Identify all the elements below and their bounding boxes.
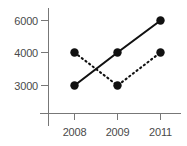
data-point-dashed-series-2008 [70,48,78,56]
y-tick-label-4000: 4000 [14,47,38,59]
data-point-solid-series-2011 [156,16,164,24]
data-point-dashed-series-2011 [156,48,164,56]
series-layer [70,16,164,89]
y-tick-label-3000: 3000 [14,80,38,92]
data-point-solid-series-2008 [70,81,78,89]
series-line-dashed-series [75,53,161,86]
y-tick-label-6000: 6000 [14,15,38,27]
x-tick-label-2011: 2011 [149,126,172,138]
x-tick-label-2008: 2008 [63,126,87,138]
data-point-dashed-series-2009 [113,81,121,89]
x-tick-label-2009: 2009 [106,126,130,138]
data-point-solid-series-2009 [113,48,121,56]
chart-canvas: 6000 4000 3000 2008 2009 2011 [0,0,187,146]
line-chart: 6000 4000 3000 2008 2009 2011 [0,0,187,146]
